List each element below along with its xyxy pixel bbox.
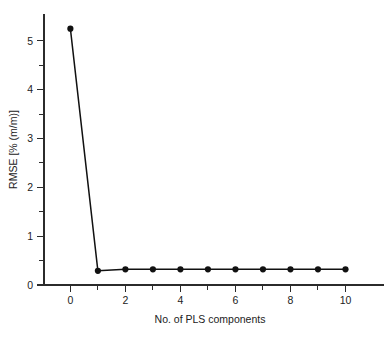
x-axis-tick-label: 4: [178, 294, 184, 306]
x-axis-tick-label: 0: [67, 294, 73, 306]
data-point-marker: [122, 266, 128, 272]
x-axis-tick-label: 10: [340, 294, 352, 306]
data-point-marker: [205, 266, 211, 272]
y-axis-tick-label: 4: [27, 83, 33, 95]
data-point-marker: [95, 268, 101, 274]
x-axis-tick-label: 2: [122, 294, 128, 306]
data-point-marker: [232, 266, 238, 272]
chart-figure: 0123450246810No. of PLS componentsRMSE […: [0, 0, 389, 339]
data-series-line: [70, 29, 345, 271]
x-axis-tick-label: 6: [233, 294, 239, 306]
data-point-marker: [342, 266, 348, 272]
data-point-marker: [150, 266, 156, 272]
y-axis-tick-label: 5: [27, 35, 33, 47]
data-point-marker: [287, 266, 293, 272]
data-point-marker: [177, 266, 183, 272]
x-axis-title: No. of PLS components: [155, 313, 266, 325]
data-point-marker: [67, 26, 73, 32]
plot-canvas: 0123450246810No. of PLS componentsRMSE […: [0, 0, 389, 339]
data-point-marker: [260, 266, 266, 272]
x-axis-tick-label: 8: [288, 294, 294, 306]
y-axis-tick-label: 2: [27, 181, 33, 193]
y-axis-tick-label: 1: [27, 230, 33, 242]
y-axis-tick-label: 3: [27, 132, 33, 144]
y-axis-tick-label: 0: [27, 279, 33, 291]
y-axis-title: RMSE [% (m/m)]: [7, 110, 19, 189]
data-point-marker: [315, 266, 321, 272]
